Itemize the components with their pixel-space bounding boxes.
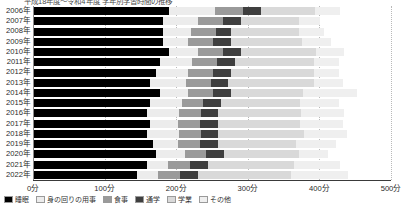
y-axis-label-2018年: 2018年 [6, 129, 31, 139]
stacked-bar [33, 69, 339, 77]
bar-segment-通学 [201, 130, 219, 138]
bar-segment-睡眠 [33, 79, 150, 87]
bar-segment-食事 [186, 79, 211, 87]
legend-item-身の回りの用事[interactable]: 身の回りの用事 [36, 196, 96, 204]
stacked-bar [33, 130, 347, 138]
legend-item-その他[interactable]: その他 [199, 196, 231, 204]
stacked-bar [33, 58, 339, 66]
bar-segment-食事 [198, 17, 223, 25]
table-row: 2015年 [33, 98, 391, 108]
stacked-bar [33, 109, 344, 117]
legend-swatch-icon [4, 196, 13, 203]
legend-label: 通学 [146, 196, 160, 204]
bar-segment-通学 [203, 99, 221, 107]
bar-segment-食事 [178, 140, 199, 148]
legend-item-睡眠[interactable]: 睡眠 [4, 196, 29, 204]
stacked-bar [33, 7, 340, 15]
bar-segment-通学 [190, 161, 208, 169]
bar-segment-身の回りの用事 [150, 120, 179, 128]
bar-segment-睡眠 [33, 99, 150, 107]
bar-segment-身の回りの用事 [147, 161, 168, 169]
bar-segment-身の回りの用事 [169, 48, 198, 56]
bar-segment-学業 [224, 150, 299, 158]
table-row: 2022年 [33, 170, 391, 180]
bar-segment-学業 [231, 69, 313, 77]
x-axis-line [33, 180, 391, 181]
bar-segment-睡眠 [33, 140, 153, 148]
bar-segment-通学 [201, 109, 219, 117]
bar-segment-睡眠 [33, 7, 169, 15]
stacked-bar [33, 171, 348, 179]
bar-segment-食事 [182, 99, 203, 107]
table-row: 2006年 [33, 6, 391, 16]
bar-segment-学業 [218, 109, 300, 117]
bar-segment-睡眠 [33, 130, 147, 138]
bar-segment-通学 [217, 58, 235, 66]
bar-segment-睡眠 [33, 38, 163, 46]
y-axis-label-2019年: 2019年 [6, 139, 31, 149]
bar-segment-食事 [179, 130, 200, 138]
y-axis-label-2013年: 2013年 [6, 78, 31, 88]
bar-segment-食事 [188, 38, 213, 46]
legend-label: その他 [210, 196, 231, 204]
bar-segment-学業 [228, 79, 314, 87]
table-row: 2014年 [33, 88, 391, 98]
table-row: 2012年 [33, 67, 391, 77]
bar-segment-学業 [208, 161, 294, 169]
bar-segment-食事 [188, 89, 213, 97]
bar-segment-その他 [300, 99, 339, 107]
bar-segment-その他 [302, 38, 331, 46]
bar-segment-睡眠 [33, 120, 150, 128]
bar-segment-その他 [299, 28, 324, 36]
legend-item-通学[interactable]: 通学 [135, 196, 160, 204]
plot-area: 2006年2007年2008年2009年2010年2011年2012年2013年… [33, 6, 391, 180]
stacked-bar [33, 120, 343, 128]
stacked-bar [33, 161, 340, 169]
bar-segment-通学 [200, 120, 218, 128]
bar-segment-食事 [158, 171, 179, 179]
legend-swatch-icon [36, 196, 45, 203]
bar-segment-食事 [185, 150, 206, 158]
table-row: 2010年 [33, 47, 391, 57]
x-tick-200: 200分 [166, 182, 187, 193]
bar-segment-通学 [213, 89, 231, 97]
y-axis-label-2022年: 2022年 [6, 170, 31, 180]
table-row: 2017年 [33, 119, 391, 129]
bar-segment-身の回りの用事 [137, 171, 158, 179]
bar-segment-その他 [314, 58, 339, 66]
legend-label: 学業 [178, 196, 192, 204]
bar-segment-身の回りの用事 [150, 79, 186, 87]
bar-segment-身の回りの用事 [147, 109, 179, 117]
x-tick-400: 400分 [309, 182, 330, 193]
bar-segment-身の回りの用事 [163, 38, 188, 46]
bar-segment-通学 [211, 79, 229, 87]
table-row: 2020年 [33, 149, 391, 159]
bar-segment-学業 [231, 28, 299, 36]
legend-item-学業[interactable]: 学業 [167, 196, 192, 204]
x-tick-0: 0分 [27, 182, 39, 193]
legend-label: 身の回りの用事 [47, 196, 96, 204]
bar-segment-通学 [216, 28, 230, 36]
bar-segment-身の回りの用事 [147, 130, 179, 138]
bar-segment-通学 [223, 17, 241, 25]
chart-title-clipped: 平成18年度〜令和4年度 学年別学習時間の推移 [0, 0, 406, 5]
table-row: 2011年 [33, 57, 391, 67]
bar-segment-身の回りの用事 [156, 150, 185, 158]
bar-segment-睡眠 [33, 28, 163, 36]
bar-segment-通学 [200, 140, 218, 148]
bar-segment-通学 [180, 171, 198, 179]
bar-segment-通学 [243, 7, 261, 15]
legend-item-食事[interactable]: 食事 [103, 196, 128, 204]
bar-segment-学業 [261, 7, 315, 15]
legend-swatch-icon [103, 196, 112, 203]
bar-segment-その他 [300, 120, 343, 128]
bar-segment-睡眠 [33, 17, 163, 25]
bar-segment-学業 [231, 38, 303, 46]
bar-segment-身の回りの用事 [153, 140, 178, 148]
bar-segment-学業 [241, 17, 298, 25]
y-axis-label-2021年: 2021年 [6, 160, 31, 170]
stacked-bar [33, 28, 324, 36]
bar-segment-学業 [198, 171, 291, 179]
bar-segment-その他 [299, 150, 328, 158]
y-axis-label-2012年: 2012年 [6, 67, 31, 77]
